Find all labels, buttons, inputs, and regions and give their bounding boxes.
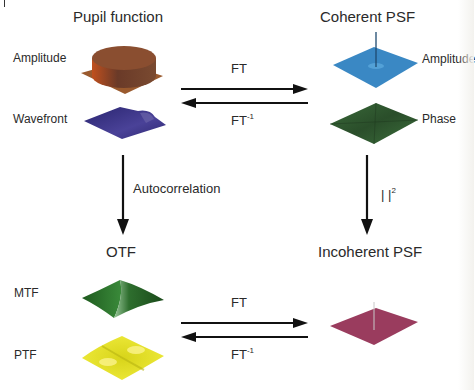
bottom-ift-label: FT-1 (231, 346, 254, 362)
coherent-psf-title: Coherent PSF (320, 8, 415, 25)
mtf-surface-icon (80, 276, 168, 322)
arrow-down-icon (117, 219, 129, 235)
arrow-down-icon (361, 219, 373, 235)
arrow-left-icon (181, 332, 196, 342)
modulus-squared-label: | |2 (381, 186, 396, 202)
pupil-function-title: Pupil function (73, 8, 163, 25)
pupil-amplitude-surface-icon (78, 40, 168, 100)
top-ift-label: FT-1 (231, 112, 254, 128)
pupil-amplitude-label: Amplitude (13, 51, 66, 65)
otf-title: OTF (106, 243, 136, 260)
ptf-surface-icon (80, 332, 168, 382)
autocorrelation-arrow (115, 155, 131, 236)
arrow-left-icon (181, 98, 196, 108)
top-ft-arrows (180, 84, 310, 104)
ptf-label: PTF (14, 348, 37, 362)
page-edge-shadow (458, 0, 474, 390)
modulus-squared-arrow (359, 155, 375, 236)
top-ft-label: FT (231, 61, 247, 76)
coherent-phase-label: Phase (422, 112, 456, 126)
pupil-wavefront-label: Wavefront (13, 112, 67, 126)
incoherent-psf-surface-icon (328, 300, 420, 350)
bottom-ft-arrows (180, 318, 310, 338)
autocorrelation-label: Autocorrelation (133, 181, 220, 196)
arrow-right-icon (293, 84, 308, 94)
coherent-phase-surface-icon (328, 100, 420, 145)
corner-mark (4, 0, 5, 7)
mtf-label: MTF (14, 286, 39, 300)
incoherent-psf-title: Incoherent PSF (318, 243, 422, 260)
bottom-ft-label: FT (231, 295, 247, 310)
arrow-right-icon (293, 318, 308, 328)
coherent-amplitude-surface-icon (330, 30, 420, 90)
pupil-wavefront-surface-icon (80, 103, 170, 143)
